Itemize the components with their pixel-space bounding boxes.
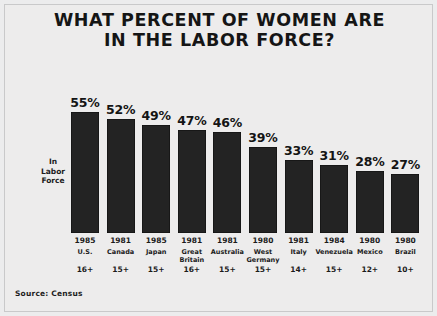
bar-value-label: 31% <box>320 148 349 163</box>
title-line-2: IN THE LABOR FORCE? <box>5 30 434 50</box>
category-country: Brazil <box>383 249 427 264</box>
bar-value-label: 55% <box>70 95 99 110</box>
bar <box>142 125 170 233</box>
title-line-1: WHAT PERCENT OF WOMEN ARE <box>5 10 434 30</box>
source-note: Source: Census <box>15 289 83 298</box>
bar <box>71 112 99 233</box>
bar-column: 47% <box>178 130 206 233</box>
chart-frame: WHAT PERCENT OF WOMEN ARE IN THE LABOR F… <box>4 4 433 312</box>
bar <box>249 147 277 233</box>
bar <box>213 132 241 233</box>
bar <box>107 119 135 233</box>
category-year: 1980 <box>383 236 427 246</box>
bar <box>356 171 384 233</box>
bar-column: 52% <box>107 119 135 233</box>
y-axis-label: In Labor Force <box>33 157 73 186</box>
bar-value-label: 39% <box>248 130 277 145</box>
bar-column: 46% <box>213 132 241 233</box>
bar-value-label: 28% <box>355 154 384 169</box>
bar-value-label: 33% <box>284 143 313 158</box>
y-axis-label-line-3: Force <box>33 176 73 186</box>
category-age-group: 10+ <box>383 265 427 275</box>
bar-value-label: 49% <box>142 108 171 123</box>
bar-value-label: 27% <box>391 157 420 172</box>
bar-value-label: 46% <box>213 115 242 130</box>
bar-column: 33% <box>285 160 313 233</box>
category-axis: 1985U.S.16+1981Canada15+1985Japan15+1981… <box>71 236 429 284</box>
category-label-group: 1980Brazil10+ <box>383 236 427 275</box>
bar-value-label: 47% <box>177 113 206 128</box>
y-axis-label-line-2: Labor <box>33 167 73 177</box>
bar-column: 31% <box>320 165 348 233</box>
bar-column: 39% <box>249 147 277 233</box>
bar-value-label: 52% <box>106 102 135 117</box>
bar <box>391 174 419 233</box>
bar-column: 27% <box>391 174 419 233</box>
plot-area: 55%52%49%47%46%39%33%31%28%27% <box>71 101 429 233</box>
bar-column: 55% <box>71 112 99 233</box>
bar <box>178 130 206 233</box>
bar <box>320 165 348 233</box>
bar <box>285 160 313 233</box>
bar-column: 28% <box>356 171 384 233</box>
bar-column: 49% <box>142 125 170 233</box>
y-axis-label-line-1: In <box>33 157 73 167</box>
page-title: WHAT PERCENT OF WOMEN ARE IN THE LABOR F… <box>5 10 434 50</box>
